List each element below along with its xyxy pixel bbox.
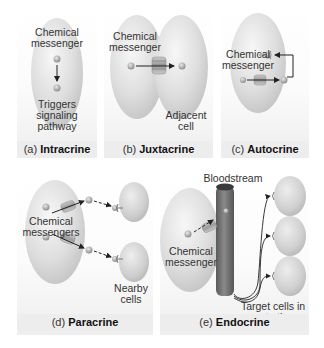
circulation-arrow-icon	[234, 196, 270, 298]
circulation-arrow-icon	[234, 236, 270, 300]
messenger-dot-icon	[54, 85, 61, 92]
label-bloodstream: Bloodstream	[198, 173, 268, 184]
messenger-dot-icon	[240, 77, 246, 83]
juxtacrine-illustration	[104, 5, 213, 158]
caption-prefix: (e)	[199, 316, 212, 328]
bloodstream-vessel-icon	[216, 186, 234, 296]
messenger-dot-icon	[86, 247, 93, 254]
target-cell-icon	[274, 216, 306, 256]
caption-prefix: (a)	[24, 143, 37, 155]
arrow-icon	[94, 201, 111, 206]
messenger-dot-icon	[185, 231, 192, 238]
messenger-dot-icon	[128, 63, 135, 70]
cell-icon	[160, 188, 220, 292]
arrow-icon	[94, 251, 111, 257]
panel-autocrine: Chemical messenger (c) Autocrine	[221, 5, 309, 158]
caption-intracrine: (a) Intracrine	[17, 141, 97, 158]
label-triggers-signaling-pathway: Triggers signaling pathway	[23, 99, 91, 132]
messenger-dot-icon	[224, 209, 229, 214]
receptor-icon	[273, 272, 275, 280]
label-nearby-cells: Nearby cells	[111, 283, 151, 305]
caption-juxtacrine: (b) Juxtacrine	[104, 141, 213, 158]
caption-prefix: (b)	[123, 143, 136, 155]
messenger-dot-icon	[43, 204, 50, 211]
messenger-dot-icon	[179, 63, 186, 70]
caption-endocrine: (e) Endocrine	[160, 314, 309, 331]
caption-title: Intracrine	[40, 143, 90, 155]
caption-title: Juxtacrine	[139, 143, 194, 155]
panel-endocrine: Bloodstream Chemical messenger Target ce…	[160, 172, 309, 335]
label-chemical-messengers: Chemical messengers	[21, 216, 81, 238]
caption-prefix: (c)	[231, 143, 244, 155]
label-chemical-messenger: Chemical messenger	[162, 246, 220, 268]
nearby-cell-icon	[119, 242, 149, 282]
panel-intracrine: Chemical messenger Triggers signaling pa…	[17, 5, 97, 158]
caption-title: Paracrine	[68, 316, 118, 328]
panel-paracrine: Chemical messengers Nearby cells (d) Par…	[17, 172, 153, 335]
target-cell-icon	[274, 176, 306, 216]
label-adjacent-cell: Adjacent cell	[162, 110, 210, 132]
caption-paracrine: (d) Paracrine	[17, 314, 153, 331]
panel-juxtacrine: Chemical messenger Adjacent cell (b) Jux…	[104, 5, 213, 158]
target-cell-icon	[274, 256, 306, 296]
caption-autocrine: (c) Autocrine	[221, 141, 309, 158]
messenger-dot-icon	[281, 77, 288, 84]
caption-title: Autocrine	[247, 143, 298, 155]
label-chemical-messenger: Chemical messenger	[106, 31, 164, 53]
messenger-dot-icon	[86, 197, 93, 204]
label-chemical-messenger: Chemical messenger	[221, 49, 275, 71]
messenger-dot-icon	[54, 56, 61, 63]
paracrine-illustration	[17, 172, 153, 335]
nearby-cell-icon	[119, 182, 149, 222]
caption-prefix: (d)	[52, 316, 65, 328]
autocrine-illustration	[221, 5, 309, 158]
caption-title: Endocrine	[216, 316, 270, 328]
receptor-icon	[273, 232, 275, 240]
label-chemical-messenger: Chemical messenger	[25, 27, 89, 49]
receptor-icon	[273, 192, 275, 200]
